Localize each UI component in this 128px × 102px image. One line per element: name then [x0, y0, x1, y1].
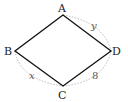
quadrilateral-diagram: A B C D y x 8 [0, 0, 128, 102]
arc-label-x: x [29, 70, 35, 81]
vertex-label-c: C [58, 89, 66, 102]
arc-label-y: y [90, 20, 97, 31]
arc-label-8: 8 [92, 70, 98, 81]
vertex-label-b: B [4, 45, 12, 58]
vertex-label-a: A [57, 2, 67, 15]
vertex-label-d: D [112, 45, 121, 58]
